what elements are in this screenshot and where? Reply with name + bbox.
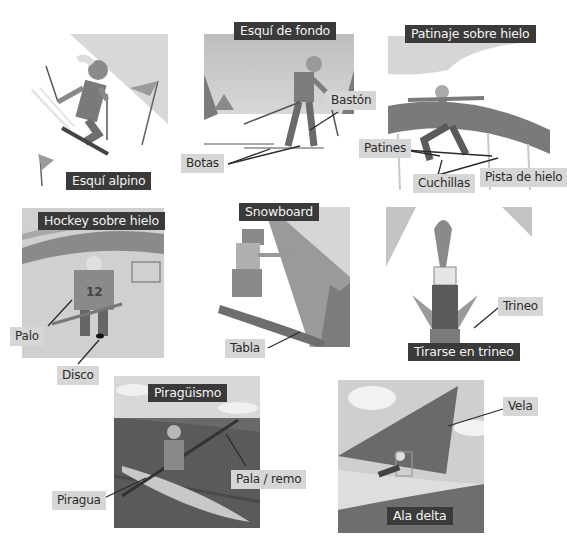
label-baston: Bastón <box>326 91 376 110</box>
label-pista-de-hielo: Pista de hielo <box>480 168 567 187</box>
panel-title-patinaje-sobre-hielo: Patinaje sobre hielo <box>405 25 536 43</box>
label-vela: Vela <box>503 397 538 416</box>
luge-illustration <box>386 207 532 347</box>
panel-title-piraguismo: Piragüismo <box>148 384 227 402</box>
label-tabla: Tabla <box>225 339 265 358</box>
label-cuchillas: Cuchillas <box>413 174 475 193</box>
panel-title-tirarse-en-trineo: Tirarse en trineo <box>408 343 520 361</box>
panel-title-snowboard: Snowboard <box>239 203 319 221</box>
jersey-number: 12 <box>86 285 103 299</box>
panel-patinaje-sobre-hielo <box>388 30 556 190</box>
label-botas: Botas <box>181 154 224 173</box>
label-pala-remo: Pala / remo <box>231 470 306 489</box>
panel-title-esqui-de-fondo: Esquí de fondo <box>234 22 336 40</box>
label-patines: Patines <box>359 139 411 158</box>
panel-title-hockey-sobre-hielo: Hockey sobre hielo <box>38 212 165 230</box>
alpine-skier-illustration <box>30 30 170 190</box>
ice-skater-illustration <box>388 30 556 190</box>
panel-snowboard <box>210 207 350 347</box>
panel-esqui-alpino <box>30 30 170 190</box>
label-disco: Disco <box>57 366 99 385</box>
panel-title-ala-delta: Ala delta <box>387 507 453 525</box>
snowboarder-illustration <box>210 207 350 347</box>
label-palo: Palo <box>10 327 44 346</box>
panel-tirarse-en-trineo <box>386 207 532 347</box>
panel-title-esqui-alpino: Esquí alpino <box>66 172 151 190</box>
label-trineo: Trineo <box>498 297 543 316</box>
label-piragua: Piragua <box>52 491 106 510</box>
